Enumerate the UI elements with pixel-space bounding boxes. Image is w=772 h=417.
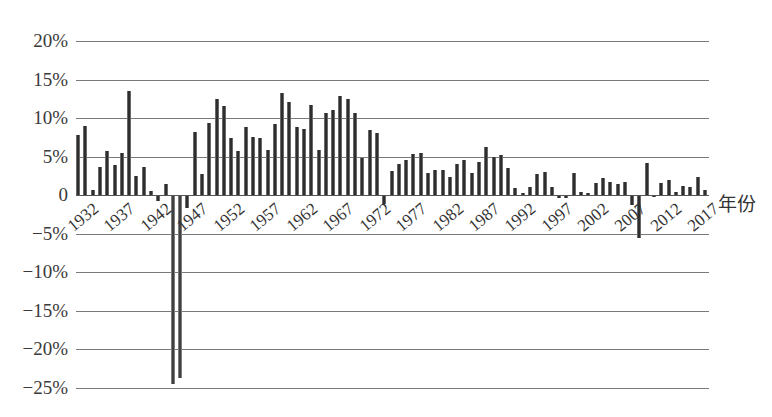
- bar-1933: [83, 126, 87, 195]
- x-tick-label: 1952: [210, 199, 249, 236]
- bar-1948: [193, 132, 197, 195]
- bar-1996: [543, 172, 547, 195]
- bar-1932: [76, 135, 80, 195]
- bar-2004: [601, 178, 605, 195]
- x-axis-label: 年份: [718, 189, 756, 216]
- bar-1965: [317, 150, 321, 195]
- bar-2005: [608, 182, 612, 195]
- chart-root: 20%15%10%5%0−5%−10%−15%−20%−25% 19321937…: [0, 0, 772, 417]
- bar-1984: [455, 164, 459, 195]
- bar-2013: [667, 180, 671, 195]
- x-tick-label: 1987: [465, 199, 504, 236]
- gridline: [76, 118, 709, 119]
- bar-1936: [105, 151, 109, 195]
- bar-1997: [550, 187, 554, 196]
- bar-1963: [302, 129, 306, 195]
- bar-1971: [360, 158, 364, 195]
- bar-1939: [127, 91, 131, 195]
- x-tick-label: 1957: [246, 199, 285, 236]
- gridline: [76, 41, 709, 42]
- bar-2018: [703, 190, 707, 195]
- gridline: [76, 157, 709, 158]
- bar-2007: [623, 182, 627, 195]
- bar-1998: [557, 196, 561, 198]
- bar-2014: [674, 192, 678, 195]
- bar-1941: [142, 167, 146, 196]
- y-tick-label: −25%: [0, 378, 68, 398]
- y-tick-label: −10%: [0, 262, 68, 282]
- bar-1938: [120, 153, 124, 195]
- x-tick-label: 1967: [319, 199, 358, 236]
- bar-1935: [98, 167, 102, 195]
- bar-1959: [273, 124, 277, 195]
- bar-1960: [280, 93, 284, 195]
- x-tick-label: 1972: [356, 199, 395, 236]
- y-tick-label: −5%: [0, 224, 68, 244]
- bar-2002: [586, 193, 590, 195]
- bar-1957: [258, 138, 262, 195]
- bar-1962: [295, 127, 299, 196]
- bar-1967: [331, 110, 335, 195]
- bar-1988: [484, 147, 488, 196]
- bar-1990: [499, 155, 503, 195]
- x-tick-label: 2002: [574, 199, 613, 236]
- y-tick-label: 15%: [0, 70, 68, 90]
- bar-1975: [390, 171, 394, 195]
- x-tick-label: 2017: [684, 199, 723, 236]
- bar-2012: [659, 183, 663, 195]
- bar-1937: [113, 165, 117, 195]
- x-tick-label: 1937: [100, 199, 139, 236]
- x-tick-label: 1982: [428, 199, 467, 236]
- bar-1982: [441, 170, 445, 195]
- bar-1995: [535, 174, 539, 195]
- bar-1980: [426, 173, 430, 195]
- gridline: [76, 80, 709, 81]
- bar-1940: [134, 176, 138, 195]
- bar-1952: [222, 106, 226, 195]
- bar-1949: [200, 174, 204, 195]
- bar-1977: [404, 160, 408, 195]
- bar-1993: [521, 193, 525, 195]
- bar-1945: [171, 196, 175, 384]
- bar-1989: [492, 157, 496, 196]
- bar-1958: [266, 150, 270, 195]
- y-tick-label: −20%: [0, 339, 68, 359]
- bar-1978: [411, 154, 415, 195]
- x-tick-label: 1997: [538, 199, 577, 236]
- bar-1944: [164, 184, 168, 195]
- x-tick-label: 1977: [392, 199, 431, 236]
- bar-1985: [462, 160, 466, 195]
- bar-1942: [149, 191, 153, 195]
- bar-1991: [506, 168, 510, 195]
- bar-1979: [419, 153, 423, 195]
- bar-2015: [681, 186, 685, 195]
- x-tick-label: 1992: [501, 199, 540, 236]
- bar-1969: [346, 99, 350, 195]
- x-tick-label: 2007: [611, 199, 650, 236]
- bar-1953: [229, 138, 233, 195]
- bar-2010: [645, 163, 649, 195]
- bar-1986: [470, 173, 474, 195]
- y-tick-label: −15%: [0, 301, 68, 321]
- y-tick-label: 0: [0, 185, 68, 205]
- bar-1934: [91, 190, 95, 195]
- bar-1970: [353, 113, 357, 195]
- bar-1983: [448, 177, 452, 196]
- x-tick-label: 1932: [64, 199, 103, 236]
- x-tick-label: 2012: [647, 199, 686, 236]
- bar-1955: [244, 127, 248, 195]
- bar-1966: [324, 113, 328, 195]
- bar-1987: [477, 162, 481, 195]
- gridline: [76, 388, 709, 389]
- bar-2003: [594, 183, 598, 195]
- bar-1992: [513, 188, 517, 195]
- bar-1972: [368, 130, 372, 196]
- bar-1950: [207, 123, 211, 195]
- bar-1943: [156, 196, 160, 201]
- bar-2000: [572, 173, 576, 195]
- bar-1968: [338, 96, 342, 195]
- bar-1994: [528, 187, 532, 195]
- bar-1951: [215, 99, 219, 195]
- bar-2016: [688, 187, 692, 195]
- bar-1956: [251, 137, 255, 195]
